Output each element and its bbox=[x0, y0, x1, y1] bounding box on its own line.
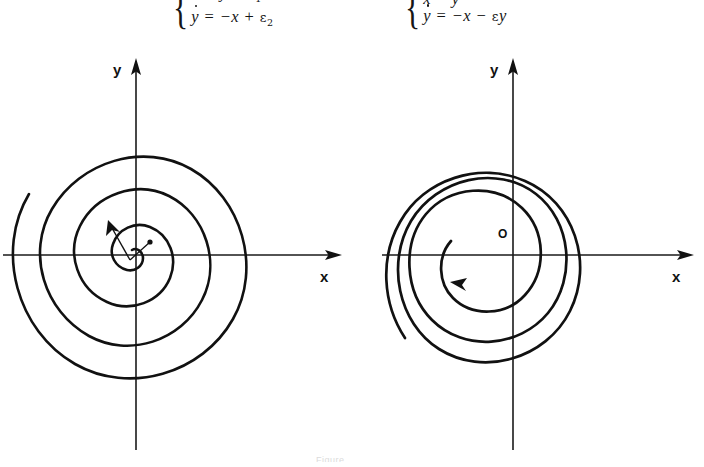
y-axis-label-left: y bbox=[113, 61, 122, 78]
left-phase-portrait-panel: y x bbox=[0, 50, 352, 450]
x-axis-label-right: x bbox=[672, 268, 681, 285]
equation-right-line-2: y = −x − εy bbox=[423, 8, 507, 25]
x-axis-right bbox=[382, 250, 694, 260]
equation-system-right: { x = y y = −x − εy bbox=[402, 0, 507, 32]
velocity-arrow-right bbox=[450, 278, 467, 291]
spiral-trajectory-right bbox=[386, 173, 580, 362]
caption-remnant: Figure bbox=[316, 455, 402, 462]
y-axis-label-right: y bbox=[490, 61, 499, 78]
spiral-trajectory-left bbox=[13, 157, 246, 379]
equation-row: { x = y + ε1 y = −x + ε2 { x = y y = −x … bbox=[0, 0, 704, 34]
y-axis-right bbox=[508, 58, 518, 450]
equation-lines-left: x = y + ε1 y = −x + ε2 bbox=[189, 0, 273, 31]
left-phase-portrait-svg: y x bbox=[0, 50, 352, 450]
brace-right: { bbox=[405, 0, 420, 31]
right-phase-portrait-panel: O y x bbox=[352, 50, 704, 450]
equation-left-line-2: y = −x + ε2 bbox=[191, 9, 273, 31]
origin-label-right: O bbox=[498, 227, 507, 241]
equation-system-left: { x = y + ε1 y = −x + ε2 bbox=[170, 0, 273, 32]
equation-lines-right: x = y y = −x − εy bbox=[421, 0, 507, 25]
right-phase-portrait-svg: O y x bbox=[352, 50, 704, 450]
x-axis-label-left: x bbox=[320, 268, 329, 285]
brace-left: { bbox=[173, 0, 188, 31]
